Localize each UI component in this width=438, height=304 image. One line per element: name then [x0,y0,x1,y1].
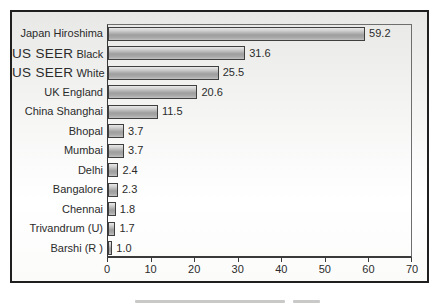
category-label-text: Barshi (R ) [50,242,103,254]
category-label: Bhopal [12,126,107,137]
value-label: 1.8 [120,204,135,215]
category-label-text: Delhi [78,164,103,176]
bar [108,241,112,255]
bar [108,105,158,119]
category-label: Japan Hiroshima [12,28,107,39]
bar-row: Barshi (R )1.0 [12,239,412,259]
bar [108,46,245,60]
category-label-text: Chennai [62,203,103,215]
category-label: Trivandrum (U) [12,223,107,234]
bar [108,183,118,197]
category-label-text: White [76,67,104,79]
bar-row: Delhi2.4 [12,161,412,181]
x-axis-tick-mark [325,258,326,262]
bar-track: 2.4 [107,161,412,181]
bar-row: US SEER Black31.6 [12,44,412,64]
category-label: UK England [12,87,107,98]
x-axis-tick-label: 20 [188,264,200,275]
bar [108,124,124,138]
category-label: Mumbai [12,145,107,156]
bar [108,163,118,177]
category-label: Barshi (R ) [12,243,107,254]
category-label: US SEER Black [12,47,107,61]
x-axis-tick-mark [151,258,152,262]
bar [108,222,115,236]
value-label: 11.5 [162,106,183,117]
bar-track: 25.5 [107,63,412,83]
category-label-text: Bhopal [69,125,103,137]
category-label-text: Bangalore [53,183,103,195]
bar-track: 59.2 [107,24,412,44]
category-label: Bangalore [12,184,107,195]
value-label: 1.7 [119,223,134,234]
value-label: 2.3 [122,184,137,195]
x-axis-tick-label: 30 [232,264,244,275]
bar-row: Trivandrum (U)1.7 [12,219,412,239]
category-label: US SEER White [12,66,107,80]
cropped-caption-remnant [293,300,320,303]
category-label-text: Japan Hiroshima [20,27,103,39]
bar-row: China Shanghai11.5 [12,102,412,122]
value-label: 31.6 [249,48,270,59]
x-axis-tick-label: 50 [319,264,331,275]
bar-track: 3.7 [107,122,412,142]
x-axis-tick-mark [194,258,195,262]
bar-track: 2.3 [107,180,412,200]
screenshot-root: Japan Hiroshima59.2US SEER Black31.6US S… [0,0,438,304]
category-label: Chennai [12,204,107,215]
x-axis-tick-mark [281,258,282,262]
bar-row: UK England20.6 [12,83,412,103]
category-label-text: UK England [44,86,103,98]
bar [108,144,124,158]
bar-row: Chennai1.8 [12,200,412,220]
chart-frame: Japan Hiroshima59.2US SEER Black31.6US S… [10,10,429,283]
x-axis-tick-label: 60 [362,264,374,275]
value-label: 25.5 [223,67,244,78]
x-axis: 010203040506070 [107,258,412,284]
x-axis-tick-label: 10 [144,264,156,275]
category-label: China Shanghai [12,106,107,117]
bar-row: Bangalore2.3 [12,180,412,200]
value-label: 20.6 [201,87,222,98]
x-axis-tick-label: 70 [406,264,418,275]
value-label: 1.0 [116,243,131,254]
bar-track: 11.5 [107,102,412,122]
category-label-emph: US SEER [12,46,73,61]
bar-track: 31.6 [107,44,412,64]
bar-track: 1.8 [107,200,412,220]
value-label: 59.2 [369,28,390,39]
category-label-text: Trivandrum (U) [29,222,103,234]
bar [108,85,197,99]
x-axis-tick-mark [238,258,239,262]
category-label: Delhi [12,165,107,176]
category-label-text: Mumbai [64,144,103,156]
x-axis-tick-label: 0 [104,264,110,275]
category-label-emph: US SEER [12,65,73,80]
bar-row: US SEER White25.5 [12,63,412,83]
bar-row: Mumbai3.7 [12,141,412,161]
x-axis-tick-mark [411,258,412,262]
bar-track: 3.7 [107,141,412,161]
bar-track: 1.0 [107,239,412,259]
value-label: 3.7 [128,145,143,156]
x-axis-tick-label: 40 [275,264,287,275]
bar [108,66,219,80]
bar [108,202,116,216]
value-label: 2.4 [122,165,137,176]
category-label-text: Black [76,48,103,60]
x-axis-tick-mark [107,258,108,262]
bar-row: Bhopal3.7 [12,122,412,142]
category-label-text: China Shanghai [25,105,103,117]
value-label: 3.7 [128,126,143,137]
cropped-caption-remnant [135,300,285,303]
x-axis-tick-mark [368,258,369,262]
bar-row: Japan Hiroshima59.2 [12,24,412,44]
bar-track: 1.7 [107,219,412,239]
bar [108,27,365,41]
bar-track: 20.6 [107,83,412,103]
bar-rows: Japan Hiroshima59.2US SEER Black31.6US S… [12,24,412,258]
